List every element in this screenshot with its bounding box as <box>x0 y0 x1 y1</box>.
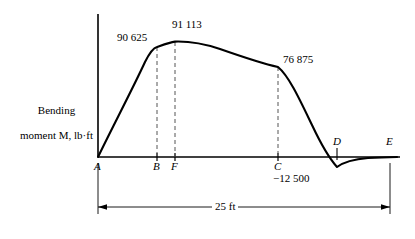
point-label-E: E <box>386 135 393 147</box>
y-axis-title-line2: moment M, lb·ft <box>20 129 93 141</box>
bending-moment-figure: Bending moment M, lb·ft 90 625 91 113 76… <box>0 0 415 239</box>
value-label-at-C: 76 875 <box>283 53 313 65</box>
dimension-arrow-left-icon <box>98 204 107 210</box>
dimension-arrow-right-icon <box>381 204 390 210</box>
point-label-F: F <box>171 160 178 172</box>
point-label-C: C <box>274 160 281 172</box>
y-axis-title: Bending moment M, lb·ft <box>8 92 94 154</box>
point-label-A: A <box>94 160 101 172</box>
value-label-at-D: −12 500 <box>273 172 309 184</box>
value-label-at-F: 91 113 <box>172 18 202 30</box>
dimension-label-25ft: 25 ft <box>212 200 238 212</box>
point-label-D: D <box>333 135 341 147</box>
bending-moment-curve <box>98 42 397 167</box>
point-label-B: B <box>153 160 160 172</box>
value-label-at-B: 90 625 <box>117 31 147 43</box>
y-axis-title-line1: Bending <box>38 104 75 116</box>
